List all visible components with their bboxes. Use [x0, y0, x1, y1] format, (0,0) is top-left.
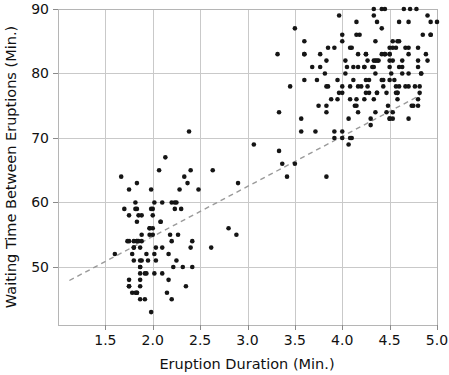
data-point — [340, 129, 345, 134]
data-point — [384, 91, 389, 96]
data-point — [324, 84, 329, 89]
data-point — [166, 278, 171, 283]
data-point — [406, 52, 411, 57]
data-point — [365, 58, 370, 63]
data-point — [379, 7, 384, 12]
data-point — [133, 200, 138, 205]
data-point — [146, 258, 151, 263]
data-point — [343, 58, 348, 63]
data-point — [340, 84, 345, 89]
data-point — [368, 116, 373, 121]
data-point — [387, 116, 392, 121]
data-point — [163, 155, 168, 160]
data-point — [332, 129, 337, 134]
data-point — [138, 265, 143, 270]
y-tick-label: 80 — [31, 65, 49, 81]
data-point — [387, 78, 392, 83]
data-point — [280, 161, 285, 166]
data-point — [416, 45, 421, 50]
data-point — [397, 20, 402, 25]
data-point — [168, 232, 173, 237]
data-point — [174, 200, 179, 205]
data-point — [403, 84, 408, 89]
data-point — [387, 52, 392, 57]
data-point — [302, 52, 307, 57]
data-point — [354, 97, 359, 102]
data-point — [351, 78, 356, 83]
data-point — [340, 136, 345, 141]
data-point — [372, 65, 377, 70]
data-point — [340, 33, 345, 38]
gridlines-group — [58, 9, 438, 325]
data-point — [176, 232, 181, 237]
data-point — [372, 97, 377, 102]
data-point — [324, 110, 329, 115]
data-point — [337, 13, 342, 18]
y-tick-label: 50 — [31, 259, 49, 275]
data-point — [169, 239, 174, 244]
data-point — [154, 245, 159, 250]
data-point — [302, 78, 307, 83]
data-point — [395, 97, 400, 102]
data-point — [346, 116, 351, 121]
data-point — [348, 97, 353, 102]
data-point — [152, 271, 157, 276]
data-point — [406, 45, 411, 50]
x-tick-label: 3.5 — [284, 332, 306, 348]
data-point — [346, 142, 351, 147]
data-point — [402, 7, 407, 12]
data-point — [389, 71, 394, 76]
data-point — [315, 78, 320, 83]
data-point — [414, 7, 419, 12]
y-tick-label: 90 — [31, 1, 49, 17]
data-point — [392, 78, 397, 83]
data-point — [416, 103, 421, 108]
data-point — [152, 252, 157, 257]
data-point — [332, 45, 337, 50]
data-point — [349, 45, 354, 50]
data-point — [351, 65, 356, 70]
data-point — [133, 290, 138, 295]
data-point — [190, 265, 195, 270]
x-tick-labels: 1.52.02.53.03.54.04.55.0 — [94, 332, 448, 348]
data-point — [362, 65, 367, 70]
plot-frame — [58, 9, 438, 326]
data-point — [143, 297, 148, 302]
data-point — [384, 110, 389, 115]
data-point — [425, 58, 430, 63]
data-point — [335, 78, 340, 83]
data-point — [138, 278, 143, 283]
data-point — [310, 65, 315, 70]
data-point — [397, 65, 402, 70]
data-point — [299, 129, 304, 134]
y-tick-label: 70 — [31, 130, 49, 146]
data-point — [152, 200, 157, 205]
data-point — [408, 7, 413, 12]
data-point — [367, 78, 372, 83]
data-point — [435, 20, 440, 25]
data-point — [323, 71, 328, 76]
data-point — [390, 58, 395, 63]
data-point — [139, 258, 144, 263]
data-point — [160, 271, 165, 276]
data-point — [210, 168, 215, 173]
data-point — [372, 13, 377, 18]
data-point — [127, 239, 132, 244]
trend-line — [69, 95, 420, 280]
y-axis-title: Waiting Time Between Eruptions (Min.) — [3, 26, 19, 308]
data-point — [379, 78, 384, 83]
data-point — [375, 58, 380, 63]
data-point — [285, 174, 290, 179]
data-point — [324, 103, 329, 108]
data-point — [340, 39, 345, 44]
data-point — [416, 97, 421, 102]
data-point — [397, 84, 402, 89]
data-point — [275, 52, 280, 57]
data-point — [390, 39, 395, 44]
data-point — [127, 213, 132, 218]
data-point — [138, 297, 143, 302]
data-point — [150, 232, 155, 237]
data-point — [379, 26, 384, 31]
data-point — [144, 271, 149, 276]
data-point — [113, 252, 118, 257]
